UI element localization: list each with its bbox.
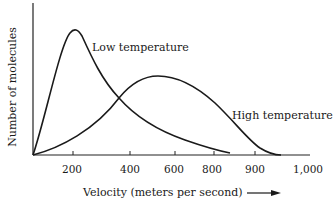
- tick-label-800: 800: [202, 163, 222, 175]
- maxwell-distribution-chart: 200 400 600 800 900 1,000 Low temperatur…: [0, 0, 334, 206]
- right-arrow-icon: [247, 190, 281, 196]
- tick-label-400: 400: [120, 163, 140, 175]
- y-axis-label: Number of molecules: [6, 27, 19, 147]
- tick-label-600: 600: [164, 163, 184, 175]
- x-axis-label: Velocity (meters per second): [82, 186, 243, 199]
- low-temperature-label: Low temperature: [92, 41, 189, 54]
- x-tick-labels: 200 400 600 800 900 1,000: [62, 163, 323, 175]
- tick-label-1000: 1,000: [293, 163, 323, 175]
- tick-label-900: 900: [245, 163, 265, 175]
- tick-label-200: 200: [62, 163, 82, 175]
- high-temperature-label: High temperature: [232, 109, 333, 122]
